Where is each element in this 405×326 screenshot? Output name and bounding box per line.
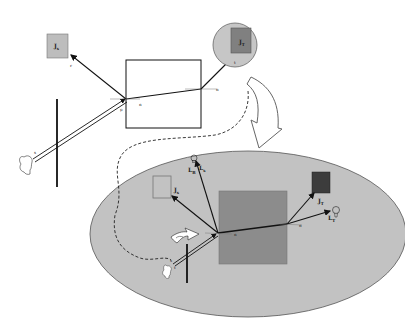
ray-tracing-diagram: Js JT n n s t LB Ls LT Js r n	[0, 0, 405, 326]
label-p: p	[120, 107, 123, 112]
label-n-bottom-1: n	[234, 232, 237, 237]
viewer-face-icon-top	[20, 156, 33, 175]
transmission-source-square-dark	[312, 172, 330, 193]
label-s-top: s	[34, 150, 36, 155]
eye-ray-top-a	[33, 99, 125, 159]
reflected-ray	[71, 55, 126, 99]
label-n-bottom-2: n	[299, 223, 302, 228]
label-s-bottom: s	[170, 258, 172, 263]
label-n-exit: n	[216, 87, 219, 92]
eye-ray-top-b	[35, 102, 127, 162]
object-square-large	[219, 191, 287, 264]
zoom-in-curved-arrow	[247, 77, 282, 148]
label-r: r	[70, 63, 72, 68]
label-n-entry: n	[139, 102, 142, 107]
